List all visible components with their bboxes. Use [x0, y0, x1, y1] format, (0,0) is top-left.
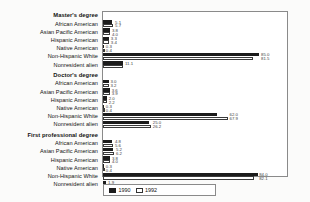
- category-label: Nonresident alien: [54, 121, 98, 127]
- bar-1990: [103, 61, 123, 64]
- bar-1990: [103, 20, 112, 23]
- value-label-1990: 11.1: [125, 62, 133, 67]
- category-label: Asian Pacific American: [40, 89, 98, 95]
- bar-1992: [103, 24, 113, 27]
- legend-label-1990: 1990: [119, 187, 131, 193]
- bar-1990: [103, 121, 149, 124]
- bar-1990: [103, 140, 112, 143]
- bar-1992: [103, 117, 228, 120]
- value-label-1992: 67.9: [230, 117, 238, 122]
- category-label: Hispanic American: [51, 97, 98, 103]
- legend-swatch-1990: [109, 188, 116, 193]
- chart-legend: 1990 1992: [103, 184, 216, 196]
- chart-root: Master's degreeAfrican AmericanAsian Pac…: [0, 0, 310, 202]
- bar-1992: [103, 65, 123, 68]
- bar-1992: [103, 168, 105, 171]
- bar-1990: [103, 53, 259, 56]
- category-label: Non-Hispanic White: [48, 113, 98, 119]
- legend-item-1990: 1990: [109, 187, 131, 193]
- category-label: Hispanic American: [51, 37, 98, 43]
- bar-1990: [103, 45, 104, 48]
- bar-1990: [103, 37, 109, 40]
- bar-1992: [103, 152, 114, 155]
- bar-1990: [103, 80, 109, 83]
- bar-1990: [103, 113, 217, 116]
- bar-1990: [103, 88, 110, 91]
- legend-label-1992: 1992: [145, 187, 157, 193]
- value-label-1992: 81.5: [261, 57, 269, 62]
- bar-plot-series: 5.15.73.84.03.33.40.30.485.081.511.13.03…: [103, 11, 287, 177]
- group-heading: First professional degree: [27, 132, 98, 138]
- bar-1992: [103, 32, 110, 35]
- bar-1990: [103, 105, 104, 108]
- bar-1992: [103, 92, 110, 95]
- value-label-1992: 82.1: [259, 177, 267, 182]
- category-label: Native American: [57, 45, 98, 51]
- value-label-1992: 4.0: [112, 160, 118, 165]
- category-label: Non-Hispanic White: [48, 53, 98, 59]
- bar-1990: [103, 96, 107, 99]
- bar-1992: [103, 40, 109, 43]
- bar-1990: [103, 173, 258, 176]
- bar-1990: [103, 28, 110, 31]
- value-label-1992: 26.2: [153, 125, 161, 130]
- category-label-column: Master's degreeAfrican AmericanAsian Pac…: [0, 11, 100, 177]
- bar-1992: [103, 57, 253, 60]
- category-label: Hispanic American: [51, 157, 98, 163]
- category-label: African American: [55, 21, 98, 27]
- bar-1992: [103, 100, 107, 103]
- bar-1992: [103, 144, 113, 147]
- category-label: Native American: [57, 165, 98, 171]
- bar-1990: [103, 156, 110, 159]
- bar-1992: [103, 125, 151, 128]
- group-heading: Doctor's degree: [53, 72, 98, 78]
- bar-1992: [103, 108, 105, 111]
- bar-1990: [103, 148, 113, 151]
- category-label: Native American: [57, 105, 98, 111]
- bar-1992: [103, 49, 105, 52]
- legend-swatch-1992: [136, 188, 143, 193]
- category-label: African American: [55, 80, 98, 86]
- category-label: African American: [55, 140, 98, 146]
- category-label: Nonresident alien: [54, 62, 98, 68]
- category-label: Non-Hispanic White: [48, 173, 98, 179]
- group-heading: Master's degree: [53, 12, 98, 18]
- legend-item-1992: 1992: [136, 187, 158, 193]
- category-label: Nonresident alien: [54, 181, 98, 187]
- bar-1992: [103, 176, 254, 179]
- category-label: Asian Pacific American: [40, 29, 98, 35]
- bar-1992: [103, 160, 110, 163]
- bar-1992: [103, 84, 109, 87]
- bar-1990: [103, 164, 104, 167]
- category-label: Asian Pacific American: [40, 148, 98, 154]
